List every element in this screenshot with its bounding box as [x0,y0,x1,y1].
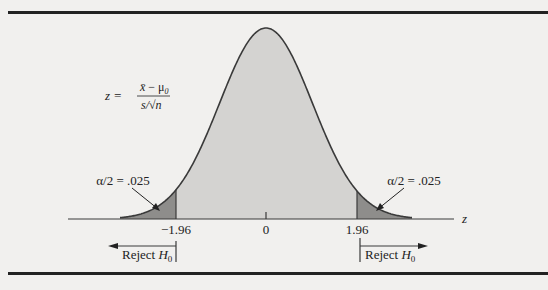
reject-right-label: Reject H0 [365,247,416,264]
tick-label-zero: 0 [263,222,270,237]
svg-text:z =: z = [104,88,122,103]
test-statistic-formula: z = x̄ − μ0 s/√n [104,80,170,112]
alpha-label-right: α/2 = .025 [387,173,441,188]
tick-label-pos196: 1.96 [346,222,369,237]
normal-distribution-figure: z −1.96 0 1.96 α/2 = .025 α/2 = .025 Rej… [0,0,548,290]
tick-label-neg196: −1.96 [161,222,192,237]
svg-text:s/√n: s/√n [141,98,162,112]
top-rule [8,11,548,14]
arrow-right-icon [418,243,428,249]
normal-curve-area [120,28,412,219]
right-rejection-tail [357,191,412,219]
bottom-rule [8,272,548,275]
left-rejection-tail [120,190,176,219]
alpha-label-left: α/2 = .025 [96,173,150,188]
z-axis-label: z [461,211,467,226]
arrow-left-icon [108,243,118,249]
svg-text:x̄ − μ0: x̄ − μ0 [139,80,169,96]
chart-canvas: z −1.96 0 1.96 α/2 = .025 α/2 = .025 Rej… [0,0,548,290]
reject-left-label: Reject H0 [122,247,173,264]
